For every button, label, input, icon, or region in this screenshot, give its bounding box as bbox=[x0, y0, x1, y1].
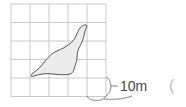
scale-leader-curve bbox=[104, 96, 132, 99]
answer-bracket: ( bbox=[169, 77, 175, 94]
pond-shape bbox=[31, 25, 87, 77]
cell-height-bracket bbox=[106, 77, 111, 96]
area-diagram: 10m ( bbox=[0, 0, 186, 107]
scale-label: 10m bbox=[120, 78, 147, 94]
